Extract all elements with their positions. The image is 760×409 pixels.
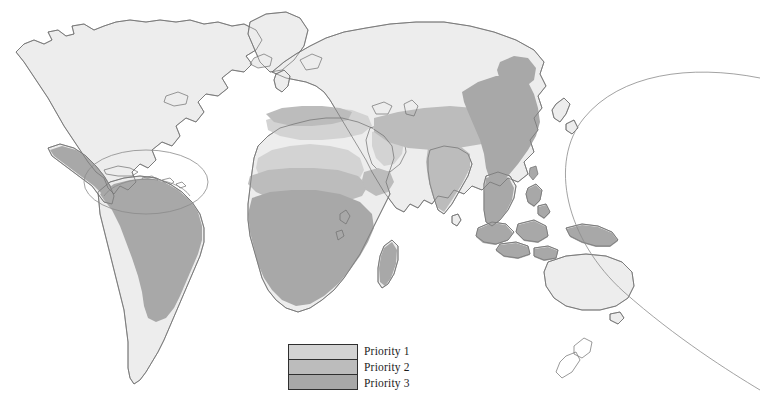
region-iceland <box>250 54 272 68</box>
shade-new-guinea-p3 <box>566 225 618 247</box>
priority-legend: Priority 1 Priority 2 Priority 3 <box>288 344 428 392</box>
legend-label-priority-2: Priority 2 <box>364 361 410 374</box>
legend-swatch-priority-2 <box>289 359 357 374</box>
shade-madagascar-p3 <box>379 242 397 286</box>
region-australia <box>544 254 634 310</box>
world-priority-map-figure: .land { fill:#ededed; stroke:#6e6e6e; st… <box>0 0 760 409</box>
legend-swatch-priority-1 <box>289 345 357 359</box>
region-japan <box>552 98 578 134</box>
shade-subsaharan-africa-p3 <box>248 190 374 306</box>
region-new-zealand <box>556 338 592 378</box>
legend-label-priority-3: Priority 3 <box>364 377 410 390</box>
legend-label-priority-1: Priority 1 <box>364 345 410 358</box>
legend-swatch-box <box>288 344 358 390</box>
legend-swatch-priority-3 <box>289 374 357 389</box>
legend-label-list: Priority 1 Priority 2 Priority 3 <box>364 344 410 390</box>
shade-indochina-p3 <box>484 174 514 227</box>
